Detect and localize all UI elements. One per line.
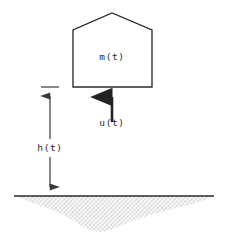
thrust-label: u(t) (99, 117, 124, 128)
altitude-label: h(t) (37, 142, 62, 153)
ground-hatch-cross (16, 196, 214, 232)
diagram-canvas: m(t) u(t) h(t) (0, 0, 226, 240)
ground-region (14, 196, 214, 232)
mass-label: m(t) (99, 51, 124, 62)
altitude-dimension-group (41, 87, 59, 187)
lander-altitude-diagram: m(t) u(t) h(t) (0, 0, 226, 240)
